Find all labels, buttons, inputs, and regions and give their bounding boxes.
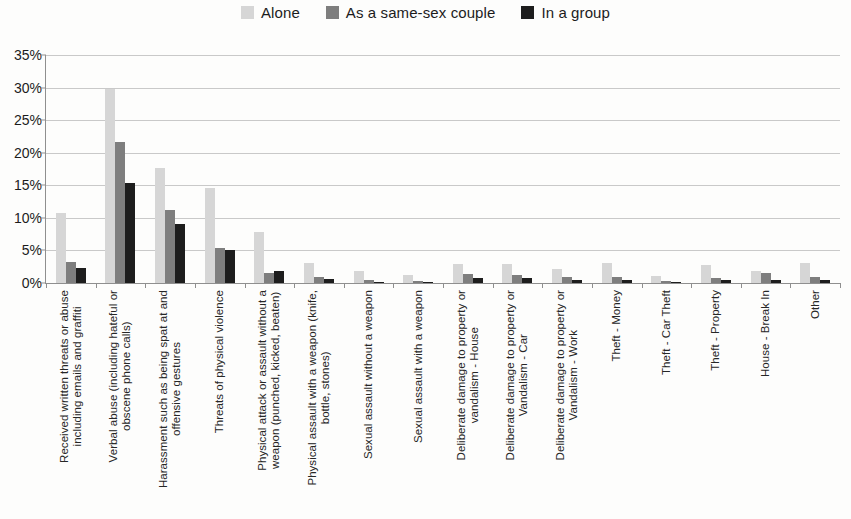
x-axis-label-line: Sexual assault without a weapon bbox=[362, 290, 375, 459]
x-axis-label: Theft - Property bbox=[709, 290, 722, 371]
legend-entry: In a group bbox=[521, 4, 610, 21]
y-axis-tick-label: 25% bbox=[2, 112, 42, 128]
bar bbox=[562, 277, 572, 284]
bar bbox=[215, 248, 225, 283]
y-axis-tick-label: 15% bbox=[2, 177, 42, 193]
x-axis-tick-mark bbox=[790, 283, 791, 288]
bar bbox=[751, 271, 761, 283]
bar-group bbox=[96, 55, 146, 283]
bar bbox=[324, 279, 334, 283]
x-axis-label-line: Sexual assault with a weapon bbox=[412, 290, 425, 443]
y-axis-tick-label: 20% bbox=[2, 145, 42, 161]
x-axis-tick-mark bbox=[592, 283, 593, 288]
bar bbox=[125, 183, 135, 283]
bar bbox=[761, 273, 771, 283]
bar bbox=[721, 280, 731, 283]
x-axis-label: Deliberate damage to property orvandalis… bbox=[455, 290, 481, 460]
bar-group bbox=[344, 55, 394, 283]
bar bbox=[304, 263, 314, 283]
bar bbox=[423, 282, 433, 283]
x-axis-label-line: Deliberate damage to property or bbox=[554, 290, 567, 460]
bar bbox=[522, 278, 532, 283]
x-axis-label: House - Break In bbox=[759, 290, 772, 377]
x-axis-label-line: House - Break In bbox=[759, 290, 772, 377]
x-axis-label: Sexual assault with a weapon bbox=[412, 290, 425, 443]
x-axis-label-line: Physical assault with a weapon (knife, bbox=[306, 290, 319, 486]
bar bbox=[66, 262, 76, 283]
bar bbox=[76, 268, 86, 283]
bar-group bbox=[741, 55, 791, 283]
bar-group bbox=[493, 55, 543, 283]
x-axis-tick-mark bbox=[294, 283, 295, 288]
x-axis-tick-mark bbox=[195, 283, 196, 288]
y-axis-tick-label: 30% bbox=[2, 80, 42, 96]
x-axis-label-line: Deliberate damage to property or bbox=[504, 290, 517, 460]
bar bbox=[453, 264, 463, 283]
bar bbox=[115, 142, 125, 283]
x-axis-label-line: offensive gestures bbox=[170, 290, 183, 488]
bar-group bbox=[790, 55, 840, 283]
x-axis-label: Physical assault with a weapon (knife,bo… bbox=[306, 290, 332, 486]
x-axis-tick-mark bbox=[840, 283, 841, 288]
legend-label: As a same-sex couple bbox=[346, 4, 496, 21]
x-axis-tick-mark bbox=[542, 283, 543, 288]
bar-group bbox=[46, 55, 96, 283]
x-axis-label-line: Verbal abuse (including hateful or bbox=[107, 290, 120, 462]
x-axis-tick-mark bbox=[344, 283, 345, 288]
bar bbox=[612, 277, 622, 283]
bar bbox=[552, 269, 562, 283]
bar-group bbox=[145, 55, 195, 283]
bar bbox=[314, 277, 324, 283]
x-axis-label-line: Received written threats or abuse bbox=[58, 290, 71, 463]
bar bbox=[403, 275, 413, 283]
y-axis-ticks: 0%5%10%15%20%25%30%35% bbox=[0, 55, 42, 283]
chart-page: AloneAs a same-sex coupleIn a group 0%5%… bbox=[0, 0, 851, 519]
bar bbox=[165, 210, 175, 283]
bar-group bbox=[393, 55, 443, 283]
bar-group bbox=[642, 55, 692, 283]
x-axis-label: Theft - Money bbox=[610, 290, 623, 362]
chart-legend: AloneAs a same-sex coupleIn a group bbox=[0, 4, 851, 21]
x-axis-tick-mark bbox=[741, 283, 742, 288]
bar bbox=[572, 280, 582, 283]
bar-group bbox=[294, 55, 344, 283]
x-axis-tick-mark bbox=[245, 283, 246, 288]
bar bbox=[254, 232, 264, 283]
bar bbox=[622, 280, 632, 283]
x-axis-label: Harassment such as being spat at andoffe… bbox=[157, 290, 183, 488]
x-axis-labels: Received written threats or abuseincludi… bbox=[46, 290, 840, 515]
bar-group bbox=[245, 55, 295, 283]
x-axis-label-line: weapon (punched, kicked, beaten) bbox=[269, 290, 282, 471]
bar-group bbox=[195, 55, 245, 283]
bar bbox=[651, 276, 661, 283]
bar bbox=[810, 277, 820, 283]
bar bbox=[463, 274, 473, 283]
x-axis-label-line: Physical attack or assault without a bbox=[256, 290, 269, 471]
x-axis-tick-mark bbox=[145, 283, 146, 288]
legend-entry: Alone bbox=[241, 4, 300, 21]
legend-label: Alone bbox=[261, 4, 300, 21]
y-axis-tick-label: 0% bbox=[2, 275, 42, 291]
legend-label: In a group bbox=[541, 4, 610, 21]
bar bbox=[264, 273, 274, 283]
x-axis-label: Threats of physical violence bbox=[213, 290, 226, 433]
x-axis-label: Received written threats or abuseincludi… bbox=[58, 290, 84, 463]
bar bbox=[661, 281, 671, 283]
x-axis-tick-mark bbox=[96, 283, 97, 288]
bar bbox=[374, 282, 384, 283]
bar bbox=[155, 168, 165, 283]
legend-swatch-icon bbox=[241, 6, 254, 19]
bar-groups bbox=[46, 55, 840, 283]
x-axis-tick-mark bbox=[493, 283, 494, 288]
bar bbox=[473, 278, 483, 283]
bar bbox=[105, 89, 115, 283]
x-axis-label-line: Theft - Car Theft bbox=[660, 290, 673, 375]
bar bbox=[800, 263, 810, 283]
x-axis-tick-mark bbox=[393, 283, 394, 288]
x-axis-label: Theft - Car Theft bbox=[660, 290, 673, 375]
x-axis-label-line: Theft - Property bbox=[709, 290, 722, 371]
bar bbox=[205, 188, 215, 283]
bar bbox=[602, 263, 612, 283]
x-axis-label: Physical attack or assault without aweap… bbox=[256, 290, 282, 471]
bar bbox=[175, 224, 185, 283]
